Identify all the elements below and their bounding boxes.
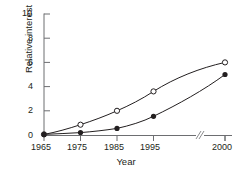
- y-tick-label-0: 0: [28, 131, 33, 140]
- data-point-filled-1985: [114, 126, 119, 131]
- data-point-open-1995: [151, 89, 156, 94]
- x-tick-label-2000: 2000: [212, 143, 232, 152]
- x-tick-label-1965: 1965: [31, 143, 51, 152]
- chart-container: 10 8 6 4 2 0 1965 1975 1985 1995 2000 Re…: [0, 0, 252, 174]
- data-point-filled-2000: [222, 72, 227, 77]
- data-point-open-2000: [222, 60, 227, 65]
- x-tick-label-1995: 1995: [140, 143, 160, 152]
- y-axis-title: Relative interest: [24, 0, 34, 94]
- data-point-open-1975: [78, 122, 83, 127]
- x-tick-label-1985: 1985: [104, 143, 124, 152]
- y-axis-title-wrap: Relative interest: [24, 0, 34, 94]
- x-axis-break-icon: [196, 131, 204, 139]
- data-point-filled-1995: [151, 114, 156, 119]
- data-point-filled-1975: [78, 130, 83, 135]
- y-tick-label-2: 2: [28, 106, 33, 115]
- data-point-filled-1965: [41, 132, 46, 137]
- x-axis-title: Year: [0, 157, 252, 167]
- data-point-open-1985: [114, 108, 119, 113]
- x-tick-label-1975: 1975: [67, 143, 87, 152]
- series-filled-circle-line: [44, 75, 225, 135]
